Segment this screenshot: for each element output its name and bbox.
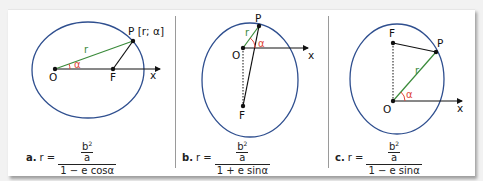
panel-a-diagram: P [r; α] O F x r α — [32, 22, 164, 118]
label-alpha: α — [258, 38, 265, 49]
angle-arc — [401, 92, 405, 101]
panel-c-diagram: P O F x r α — [350, 24, 463, 134]
radius-line — [393, 52, 436, 101]
focus-point — [241, 104, 245, 108]
label-x: x — [308, 49, 314, 61]
formula-tag: b. — [182, 152, 193, 163]
label-alpha: α — [406, 89, 413, 100]
label-r: r — [245, 27, 250, 38]
angle-arc — [250, 38, 255, 48]
formula-a: a. r = b2 a 1 − e cosα — [26, 138, 116, 177]
formula-lhs: r = — [196, 152, 212, 163]
fraction: b2 a 1 + e sinα — [215, 138, 270, 177]
label-f: F — [389, 27, 395, 39]
label-p: P [r; α] — [128, 25, 164, 37]
origin-point — [391, 99, 395, 103]
label-p: P — [437, 37, 443, 49]
denominator: 1 + e sinα — [215, 164, 270, 177]
label-o: O — [232, 49, 240, 61]
label-o: O — [383, 103, 391, 115]
label-r: r — [84, 44, 89, 55]
fraction: b2 a 1 − e cosα — [58, 138, 116, 177]
point-p — [131, 39, 135, 43]
denominator: 1 − e cosα — [58, 164, 116, 177]
formula-c: c. r = b2 a 1 − e sinα — [335, 138, 422, 177]
label-alpha: α — [74, 59, 81, 70]
label-x: x — [150, 69, 156, 81]
angle-arc — [69, 64, 70, 69]
formula-lhs: r = — [40, 152, 56, 163]
panel-b-diagram: P O F x r α — [202, 12, 314, 137]
formula-tag: a. — [26, 152, 37, 163]
formula-lhs: r = — [348, 152, 364, 163]
label-p: P — [255, 12, 261, 24]
ellipse — [350, 24, 444, 134]
point-p — [257, 24, 261, 28]
label-f: F — [239, 109, 245, 121]
ellipse — [202, 23, 298, 137]
formula-tag: c. — [335, 152, 345, 163]
formula-b: b. r = b2 a 1 + e sinα — [182, 138, 270, 177]
origin-point — [241, 46, 245, 50]
focus-point — [391, 41, 395, 45]
radius-line — [55, 41, 133, 69]
fraction: b2 a 1 − e sinα — [366, 138, 421, 177]
focal-line — [393, 43, 436, 52]
label-o: O — [49, 71, 57, 83]
point-p — [434, 50, 438, 54]
label-f: F — [110, 71, 116, 83]
denominator: 1 − e sinα — [366, 164, 421, 177]
label-x: x — [457, 102, 463, 114]
